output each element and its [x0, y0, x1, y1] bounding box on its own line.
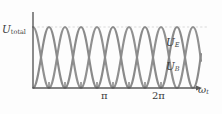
y-axis-label: Utotal: [2, 24, 26, 35]
x-axis-label: ωt: [198, 85, 209, 95]
curve-label-ue: UE: [166, 37, 180, 48]
x-tick-label-pi: π: [101, 91, 108, 101]
curve-label-ub: UB: [166, 61, 180, 72]
x-tick-label-2pi: 2π: [152, 91, 165, 101]
energy-oscillation-figure: Utotal ωt π 2π UE UB: [0, 0, 222, 114]
plot-canvas: [0, 0, 222, 114]
